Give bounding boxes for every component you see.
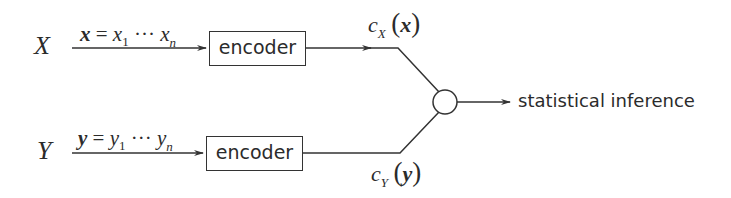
- x-sequence-label: x = x1 ··· xn: [80, 22, 176, 51]
- y-code-label: cY (y): [371, 157, 421, 191]
- x-code-wire: [369, 48, 439, 92]
- y-sequence-label: y = y1 ··· yn: [78, 126, 173, 155]
- y-code-wire: [302, 112, 439, 153]
- output-label: statistical inference: [518, 90, 695, 111]
- x-code-label: cX (x): [368, 8, 420, 42]
- encoder-y-box: encoder: [206, 136, 303, 171]
- source-x-label: X: [34, 31, 50, 61]
- encoder-x-box: encoder: [209, 31, 306, 66]
- combiner-circle: [433, 90, 457, 114]
- source-y-label: Y: [37, 136, 51, 166]
